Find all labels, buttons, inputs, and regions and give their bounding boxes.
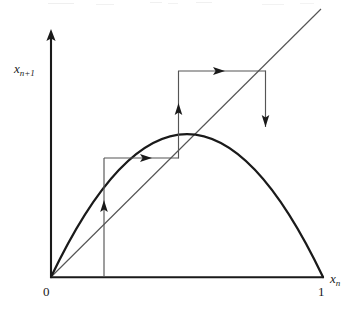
- identity-line: [51, 9, 321, 277]
- x-axis-label-subscript: n: [336, 278, 341, 288]
- cobweb-diagram-figure: xn+1 xn 0 1: [0, 0, 360, 314]
- plot-canvas: [0, 0, 360, 314]
- x-axis-label: xn: [330, 271, 340, 288]
- scan-noise: [48, 2, 314, 5]
- y-axis-label-subscript: n+1: [20, 68, 35, 78]
- cobweb-staircase: [100, 67, 269, 277]
- logistic-curve: [51, 134, 323, 277]
- y-axis-label: xn+1: [14, 61, 35, 78]
- x-tick-label-0: 0: [43, 284, 50, 300]
- x-tick-label-1: 1: [318, 284, 325, 300]
